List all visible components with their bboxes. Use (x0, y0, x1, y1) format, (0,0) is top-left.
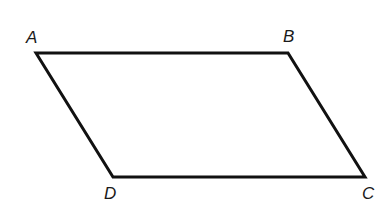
vertex-label-d: D (104, 184, 116, 203)
parallelogram-diagram: A B C D (0, 0, 391, 212)
vertex-label-c: C (362, 184, 375, 203)
vertex-label-b: B (283, 27, 294, 46)
parallelogram-abcd (36, 53, 365, 177)
vertex-label-a: A (25, 28, 37, 47)
